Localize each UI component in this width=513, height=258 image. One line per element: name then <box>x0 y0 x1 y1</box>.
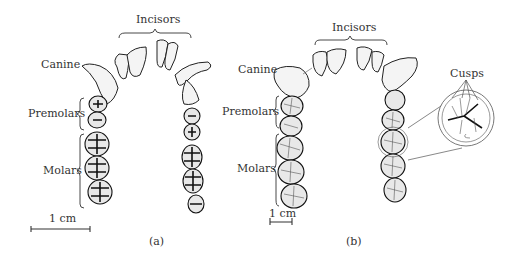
panel-a-premolars-label: Premolars <box>28 108 85 120</box>
panel-a-incisors-label: Incisors <box>136 14 180 26</box>
panel-b-cusps-label: Cusps <box>450 68 484 80</box>
panel-b-incisors-brace <box>315 36 387 45</box>
panel-b-canine-right <box>382 58 417 92</box>
panel-b-incisor-4 <box>372 51 384 72</box>
panel-a-incisor-2 <box>127 47 146 76</box>
panel-b-canine-label: Canine <box>238 64 277 76</box>
panel-a-scale-label: 1 cm <box>49 213 76 225</box>
panel-a-incisor-1 <box>115 54 129 79</box>
panel-b-premolars-label: Premolars <box>222 106 279 118</box>
panel-b-premolar-right-1 <box>385 90 405 110</box>
panel-a-caption: (a) <box>149 235 164 248</box>
panel-a-premolar-right-1 <box>182 80 199 105</box>
magnifier-leader-bottom <box>408 148 462 160</box>
panel-b-dentition <box>270 36 494 225</box>
panel-a-scale-bar <box>31 226 90 232</box>
dental-arcade-diagram <box>0 0 513 258</box>
panel-b-incisor-3 <box>357 47 372 70</box>
panel-a-canine-right <box>175 62 211 85</box>
panel-b-canine-left <box>274 66 309 98</box>
panel-b-molars-label: Molars <box>237 163 276 175</box>
panel-b-scale-label: 1 cm <box>269 208 296 220</box>
panel-b-caption: (b) <box>346 235 362 248</box>
panel-a-molars-label: Molars <box>43 165 82 177</box>
panel-a-incisors-brace <box>119 29 191 38</box>
panel-b-incisor-1 <box>313 51 327 76</box>
panel-b-incisor-2 <box>327 49 346 74</box>
cusps-magnifier-inset <box>438 80 494 146</box>
panel-a-canine-label: Canine <box>41 59 80 71</box>
panel-b-incisors-label: Incisors <box>332 22 376 34</box>
